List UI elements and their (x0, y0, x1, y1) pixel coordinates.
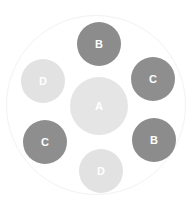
node-c-upper-right: C (131, 57, 175, 101)
node-d-upper-left: D (21, 59, 65, 103)
node-label: B (150, 135, 158, 146)
center-node-a: A (70, 77, 128, 135)
node-b-lower-right: B (132, 118, 176, 162)
node-label: D (39, 76, 47, 87)
center-node-label: A (95, 101, 103, 112)
node-label: D (97, 166, 105, 177)
node-label: C (41, 137, 49, 148)
node-label: B (95, 39, 103, 50)
node-label: C (149, 74, 157, 85)
node-b-top: B (77, 22, 121, 66)
node-d-bottom: D (79, 149, 123, 193)
node-c-lower-left: C (23, 120, 67, 164)
